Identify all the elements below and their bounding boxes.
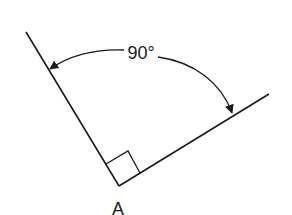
arc-arrow-left bbox=[50, 50, 124, 69]
right-ray bbox=[119, 94, 269, 186]
angle-label: 90° bbox=[127, 43, 154, 63]
right-angle-marker bbox=[106, 151, 140, 173]
left-ray bbox=[26, 32, 119, 186]
right-angle-diagram: 90° A bbox=[0, 0, 292, 215]
arc-arrow-right bbox=[158, 57, 232, 113]
vertex-label: A bbox=[112, 199, 124, 215]
